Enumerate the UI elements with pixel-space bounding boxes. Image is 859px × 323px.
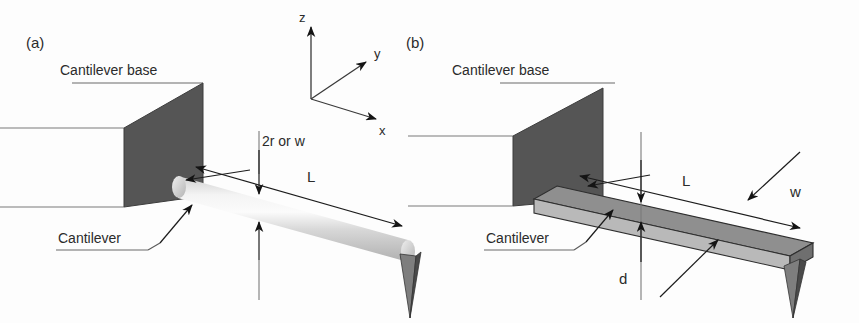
panel-a-base-label: Cantilever base [60, 62, 157, 78]
cantilever-label-b: Cantilever [486, 230, 549, 246]
cylinder-base-cap-a [172, 176, 186, 198]
y-axis-label: y [374, 46, 381, 61]
probe-tip-a [400, 252, 421, 318]
thickness-label-b: d [619, 270, 627, 287]
cantilever-diagram-svg: (a) Cantilever base [0, 0, 859, 323]
figure-root: (a) Cantilever base [0, 0, 859, 323]
cantilever-base-block-b [408, 83, 615, 206]
width-dimension-b: w [748, 152, 801, 200]
panel-b-base-label: Cantilever base [452, 62, 549, 78]
cantilever-leader-arrow-a [160, 205, 192, 243]
z-axis-label: z [299, 10, 306, 25]
coordinate-axes: z y x [299, 10, 386, 138]
cross-section-label-a: 2r or w [262, 133, 306, 149]
cylinder-body-a [178, 176, 408, 262]
beam-pointer-arrow-b [660, 240, 718, 297]
panel-a-label: (a) [26, 34, 44, 51]
cantilever-label-a: Cantilever [58, 230, 121, 246]
cantilever-leader-elbow-b [574, 242, 586, 250]
panel-b: (b) Cantilever base [406, 34, 813, 318]
panel-b-label: (b) [406, 34, 424, 51]
width-label-b: w [789, 183, 801, 200]
y-axis-line [311, 62, 366, 99]
cantilever-leader-elbow-a [148, 243, 160, 250]
panel-a: (a) Cantilever base [0, 34, 421, 318]
length-label-b: L [682, 172, 690, 189]
x-axis-line [311, 99, 376, 119]
length-label-a: L [307, 168, 315, 185]
x-axis-label: x [379, 123, 386, 138]
cantilever-callout-a: Cantilever [56, 205, 192, 250]
probe-tip-b [784, 259, 806, 318]
